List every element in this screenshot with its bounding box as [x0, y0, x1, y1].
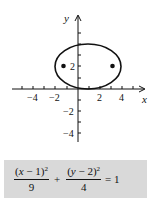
fraction-term-2: (y − 2)2 4 — [66, 165, 101, 194]
x-tick-label: 2 — [97, 92, 102, 103]
x-tick-label: −4 — [27, 92, 38, 103]
equation-box: (x − 1)2 9 + (y − 2)2 4 = 1 — [4, 160, 147, 198]
fraction-numerator: (y − 2)2 — [66, 165, 101, 180]
fraction-denominator: 9 — [29, 180, 35, 194]
fraction-denominator: 4 — [81, 180, 87, 194]
x-tick-label: −2 — [49, 92, 60, 103]
ellipse-graph: −4 −2 2 4 2 −2 −4 x y — [0, 0, 155, 150]
y-tick-label: −2 — [63, 106, 74, 117]
x-axis-label: x — [141, 93, 147, 105]
focus-point-left — [61, 64, 66, 69]
numerator-rest: − 1) — [24, 165, 45, 177]
x-tick-label: 4 — [119, 92, 124, 103]
equation: (x − 1)2 9 + (y − 2)2 4 = 1 — [14, 160, 120, 198]
exponent: 2 — [97, 165, 101, 173]
fraction-term-1: (x − 1)2 9 — [14, 165, 49, 194]
numerator-rest: − 2) — [76, 165, 97, 177]
exponent: 2 — [44, 165, 48, 173]
focus-point-right — [110, 64, 115, 69]
y-axis-label: y — [63, 12, 69, 24]
y-tick-label: 2 — [70, 61, 75, 72]
equals-one: = 1 — [105, 173, 119, 185]
plus-sign: + — [54, 173, 60, 185]
y-tick-label: −4 — [63, 128, 74, 139]
fraction-numerator: (x − 1)2 — [14, 165, 49, 180]
